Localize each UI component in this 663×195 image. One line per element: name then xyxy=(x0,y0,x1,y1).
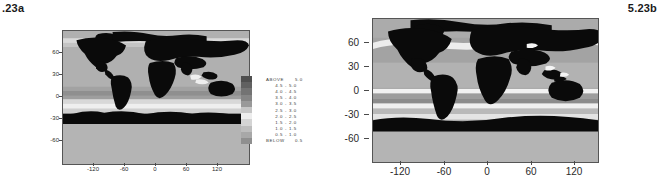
legend-low-label: 1.0 xyxy=(266,126,283,131)
legend-text: 3.0 - 3.5 xyxy=(266,101,303,106)
figure-label-left: .23a xyxy=(2,2,24,14)
legend-high-label: 3.0 xyxy=(289,108,303,113)
legend-text: 3.5 - 4.0 xyxy=(266,95,303,100)
xtick-mark xyxy=(400,161,401,165)
ytick-mark xyxy=(59,140,62,141)
ytick-label: -60 xyxy=(330,133,359,144)
xtick-label: 120 xyxy=(212,166,222,172)
ytick-mark xyxy=(364,42,369,43)
legend-swatch xyxy=(241,138,252,144)
ytick-mark xyxy=(59,96,62,97)
ytick-mark xyxy=(59,52,62,53)
xtick-label: 0 xyxy=(484,166,490,177)
ytick-label: -30 xyxy=(42,115,59,121)
xtick-label: -60 xyxy=(437,166,451,177)
legend-high-label: 1.5 xyxy=(289,126,303,131)
ytick-mark xyxy=(59,118,62,119)
legend-low-label: 0.5 xyxy=(266,132,283,137)
map-plot-area-a xyxy=(62,30,250,165)
legend-row: BELOW 0.5 xyxy=(241,138,309,144)
xtick-mark xyxy=(487,161,488,165)
xtick-label: -120 xyxy=(390,166,410,177)
legend-high-label: 4.5 xyxy=(289,89,303,94)
legend-high-label: 4.0 xyxy=(289,95,303,100)
legend-high-label: 3.5 xyxy=(289,101,303,106)
legend-high-label: 1.0 xyxy=(289,132,303,137)
legend-low-label: 2.5 xyxy=(266,108,283,113)
ytick-label: -60 xyxy=(42,137,59,143)
xtick-label: 120 xyxy=(566,166,583,177)
legend-text: 2.0 - 2.5 xyxy=(266,114,303,119)
ytick-mark xyxy=(364,114,369,115)
legend-high-label: 2.0 xyxy=(289,120,303,125)
legend-text: ABOVE 5.0 xyxy=(266,77,309,82)
ytick-label: 30 xyxy=(42,71,59,77)
xtick-mark xyxy=(531,161,532,165)
ytick-mark xyxy=(364,138,369,139)
legend-text: 4.0 - 4.5 xyxy=(266,89,303,94)
xtick-mark xyxy=(574,161,575,165)
legend-high-label: 5.0 xyxy=(295,77,309,82)
legend-high-label: 2.5 xyxy=(289,114,303,119)
legend-text: 2.5 - 3.0 xyxy=(266,108,303,113)
legend-low-label: 1.5 xyxy=(266,120,283,125)
ytick-label: 0 xyxy=(42,93,59,99)
legend-low-label: 2.0 xyxy=(266,114,283,119)
xtick-label: -60 xyxy=(120,166,129,172)
legend-low-label: ABOVE xyxy=(266,77,289,82)
legend-text: 0.5 - 1.0 xyxy=(266,132,303,137)
ytick-label: -30 xyxy=(330,109,359,120)
ytick-mark xyxy=(59,74,62,75)
legend-high-label: 5.0 xyxy=(289,83,303,88)
legend-text: 4.5 - 5.0 xyxy=(266,83,303,88)
xtick-label: 60 xyxy=(183,166,190,172)
world-map-field-b xyxy=(373,19,598,132)
xtick-label: 60 xyxy=(525,166,536,177)
ytick-label: 60 xyxy=(330,37,359,48)
xtick-label: 0 xyxy=(153,166,156,172)
xtick-label: -120 xyxy=(87,166,99,172)
map-plot-area-b xyxy=(372,18,599,163)
ytick-mark xyxy=(364,66,369,67)
colorbar-legend: ABOVE 5.0 4.5 - 5.0 4.0 - 4.5 3.5 - 4.0 xyxy=(241,76,309,144)
legend-low-label: 4.0 xyxy=(266,89,283,94)
world-map-field-a xyxy=(63,31,249,124)
legend-text: BELOW 0.5 xyxy=(266,138,309,143)
ytick-label: 0 xyxy=(330,85,359,96)
legend-low-label: 4.5 xyxy=(266,83,283,88)
ytick-label: 30 xyxy=(330,61,359,72)
legend-low-label: 3.0 xyxy=(266,101,283,106)
legend-low-label: 3.5 xyxy=(266,95,283,100)
figure-label-right: 5.23b xyxy=(628,2,657,14)
ytick-mark xyxy=(364,90,369,91)
legend-text: 1.5 - 2.0 xyxy=(266,120,303,125)
ytick-label: 60 xyxy=(42,49,59,55)
legend-low-label: BELOW xyxy=(266,138,289,143)
legend-text: 1.0 - 1.5 xyxy=(266,126,303,131)
legend-high-label: 0.5 xyxy=(295,138,309,143)
xtick-mark xyxy=(444,161,445,165)
